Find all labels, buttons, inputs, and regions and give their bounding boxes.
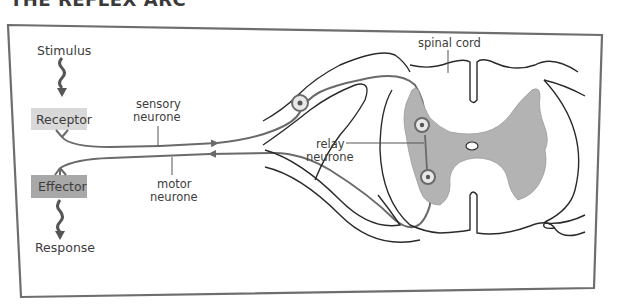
response-label: Response bbox=[35, 240, 95, 255]
receptor-label: Receptor bbox=[36, 112, 93, 127]
relay-cell-body-icon bbox=[415, 118, 429, 132]
sensory-label-line1: sensory bbox=[136, 97, 181, 111]
stimulus-label: Stimulus bbox=[37, 43, 91, 58]
motor-label-line1: motor bbox=[157, 177, 192, 191]
diagram-canvas: Stimulus Receptor Effector Response sens… bbox=[0, 0, 626, 305]
central-canal bbox=[466, 142, 478, 150]
motor-cell-body-icon bbox=[421, 170, 435, 184]
sensory-cell-body-icon bbox=[292, 95, 308, 111]
motor-label-line2: neurone bbox=[150, 190, 198, 204]
reflex-arc-diagram: THE REFLEX ARC bbox=[0, 0, 626, 305]
relay-label-line1: relay bbox=[316, 137, 345, 151]
sensory-label-line2: neurone bbox=[133, 110, 181, 124]
diagram-title: THE REFLEX ARC bbox=[10, 0, 186, 10]
relay-label-line2: neurone bbox=[306, 150, 354, 164]
spinal-cord-label: spinal cord bbox=[418, 36, 481, 50]
effector-label: Effector bbox=[38, 179, 88, 194]
